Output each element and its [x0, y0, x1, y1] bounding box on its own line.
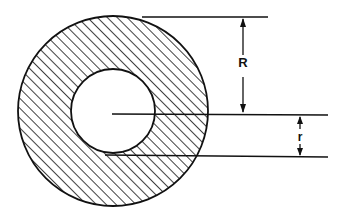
- outer-radius-label: R: [238, 55, 248, 70]
- center-extension-line: [112, 114, 328, 115]
- annulus-diagram: R r: [0, 0, 342, 223]
- hatched-ring: [0, 0, 342, 223]
- inner-circle: [71, 69, 155, 153]
- inner-radius-dimension: r: [297, 116, 303, 156]
- inner-radius-label: r: [298, 130, 303, 144]
